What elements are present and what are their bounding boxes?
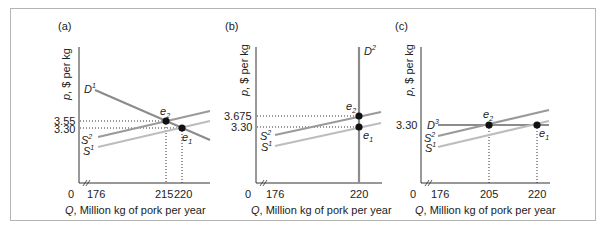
curve-label-d1: D1 xyxy=(84,82,96,95)
panel-b-xlabel: Q, Million kg of pork per year xyxy=(251,204,392,216)
x-tick: 0 xyxy=(245,188,251,200)
x-tick: 176 xyxy=(431,188,449,200)
figure-svg: (a) p, $ per kg D1 S2 S1 e2 e1 3.55 3.30… xyxy=(0,0,603,232)
panel-c: (c) p, $ per kg D3 S2 S1 e2 e1 3.30 0 17… xyxy=(395,20,556,216)
x-tick: 176 xyxy=(266,188,284,200)
panel-a-ylabel: p, $ per kg xyxy=(60,48,72,101)
panel-c-ylabel: p, $ per kg xyxy=(403,44,415,97)
curve-label-d3: D3 xyxy=(427,118,439,131)
curve-label-s1: S1 xyxy=(261,140,272,153)
x-tick: 176 xyxy=(87,188,105,200)
point-label-e2: e2 xyxy=(346,100,356,114)
panel-b-ylabel: p, $ per kg xyxy=(238,44,250,97)
equilibrium-point-e1 xyxy=(355,123,362,130)
panel-a: (a) p, $ per kg D1 S2 S1 e2 e1 3.55 3.30… xyxy=(54,20,210,216)
x-tick: 220 xyxy=(528,188,546,200)
curve-label-s1: S1 xyxy=(425,141,436,154)
panel-a-label: (a) xyxy=(58,20,71,32)
curve-label-s1: S1 xyxy=(83,144,94,157)
x-tick: 220 xyxy=(174,188,192,200)
panel-b: (b) p, $ per kg D2 S2 S1 e2 e1 3.675 3.3… xyxy=(224,20,392,216)
point-label-e2: e2 xyxy=(160,105,170,119)
panel-c-xlabel: Q, Million kg of pork per year xyxy=(415,204,556,216)
point-label-e1: e1 xyxy=(182,131,192,145)
curve-label-d2: D2 xyxy=(364,44,376,57)
supply-curve-s2 xyxy=(438,110,549,136)
point-label-e2: e2 xyxy=(483,108,493,122)
x-tick: 0 xyxy=(68,188,74,200)
point-label-e1: e1 xyxy=(539,127,549,141)
y-tick: 3.30 xyxy=(54,123,75,135)
y-tick: 3.30 xyxy=(231,121,252,133)
point-label-e1: e1 xyxy=(363,129,373,143)
equilibrium-point-e2 xyxy=(355,112,362,119)
x-tick: 215 xyxy=(155,188,173,200)
equilibrium-point-e2 xyxy=(485,121,492,128)
x-tick: 0 xyxy=(410,188,416,200)
x-tick: 220 xyxy=(350,188,368,200)
x-tick: 205 xyxy=(480,188,498,200)
panel-a-xlabel: Q, Million kg of pork per year xyxy=(65,204,206,216)
panel-c-label: (c) xyxy=(395,20,408,32)
panel-b-label: (b) xyxy=(225,20,238,32)
y-tick: 3.30 xyxy=(396,119,417,131)
